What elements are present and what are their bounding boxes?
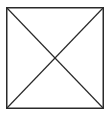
- canvas: [0, 0, 108, 115]
- image-placeholder: [6, 7, 104, 109]
- image-placeholder-icon: [6, 7, 104, 109]
